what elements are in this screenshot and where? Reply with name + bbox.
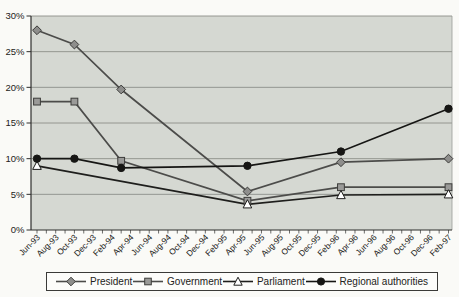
square-marker-icon [133, 276, 163, 287]
legend-label: Parliament [257, 276, 305, 287]
y-axis-label-25: 25% [5, 46, 25, 57]
x-axis-label-feb-95: Feb-95 [203, 232, 229, 258]
y-axis-label-10: 10% [5, 153, 25, 164]
circle-marker-icon [117, 164, 124, 171]
square-marker-icon [34, 98, 41, 105]
circle-marker-icon [71, 155, 78, 162]
circle-marker-icon [244, 162, 251, 169]
y-axis-label-0: 0% [11, 224, 25, 235]
x-axis-label-feb-97: Feb-97 [428, 232, 454, 258]
x-axis-label-feb-94: Feb-94 [91, 232, 117, 258]
circle-marker-icon [33, 155, 40, 162]
legend-item-regional-authorities: Regional authorities [306, 276, 428, 287]
legend-item-president: President [56, 276, 132, 287]
square-marker-icon [118, 157, 125, 164]
legend-label: Regional authorities [340, 276, 428, 287]
circle-marker-icon [306, 276, 336, 287]
circle-marker-icon [445, 105, 452, 112]
triangle-up-marker-icon [223, 276, 253, 287]
x-axis-label-feb-96: Feb-96 [315, 232, 341, 258]
circle-marker-icon [337, 148, 344, 155]
trust-line-chart: 0%5%10%15%20%25%30%Jun-93Aug-93Oct-93Dec… [0, 0, 459, 297]
y-axis-label-5: 5% [11, 189, 25, 200]
legend-label: President [90, 276, 132, 287]
square-marker-icon [71, 98, 78, 105]
legend-label: Government [167, 276, 222, 287]
y-axis-label-15: 15% [5, 117, 25, 128]
chart-legend: PresidentGovernmentParliamentRegional au… [46, 272, 438, 291]
chart-plot-area: 0%5%10%15%20%25%30%Jun-93Aug-93Oct-93Dec… [0, 0, 459, 297]
legend-item-parliament: Parliament [223, 276, 305, 287]
legend-item-government: Government [133, 276, 222, 287]
y-axis-label-30: 30% [5, 10, 25, 21]
y-axis-label-20: 20% [5, 82, 25, 93]
diamond-marker-icon [56, 276, 86, 287]
